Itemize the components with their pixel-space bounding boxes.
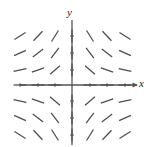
slope-segment (102, 114, 112, 122)
slope-segment (34, 31, 43, 40)
slope-segment (14, 115, 26, 120)
slope-segment (32, 99, 44, 103)
slope-segment (119, 132, 130, 139)
slope-segment (51, 48, 59, 58)
slope-segment (34, 130, 43, 139)
y-axis-label: y (67, 7, 72, 18)
slope-segment (14, 100, 27, 103)
slope-segment (14, 33, 25, 40)
slope-segment (50, 66, 60, 74)
slope-segment (101, 99, 113, 103)
slope-segment (119, 50, 131, 55)
slope-segment (103, 31, 112, 40)
slope-segment (119, 69, 132, 72)
slope-segment (33, 114, 43, 122)
axis-group (20, 20, 138, 145)
x-axis-label: x (139, 78, 144, 89)
slope-segment (87, 129, 94, 140)
slope-segment (101, 68, 113, 72)
slope-field-figure: y x (0, 0, 151, 147)
slope-segment (85, 97, 95, 105)
slope-segment (86, 48, 94, 58)
slope-segment (119, 33, 130, 40)
slope-segment (119, 100, 132, 103)
slope-segment (14, 132, 25, 139)
slope-segment (119, 115, 131, 120)
slope-segment (85, 66, 95, 74)
slope-segment (32, 68, 44, 72)
slope-segment (52, 129, 59, 140)
slope-segment (87, 30, 94, 41)
slope-segment (102, 49, 112, 57)
slope-segment (86, 113, 94, 123)
slope-segment (33, 49, 43, 57)
slope-segment (51, 113, 59, 123)
slope-segment (50, 97, 60, 105)
slope-segment (14, 69, 27, 72)
x-axis-arrowhead (133, 82, 139, 87)
slope-segment (52, 30, 59, 41)
slope-segment (14, 50, 26, 55)
slope-segment (103, 130, 112, 139)
slope-field-plot (0, 0, 151, 147)
